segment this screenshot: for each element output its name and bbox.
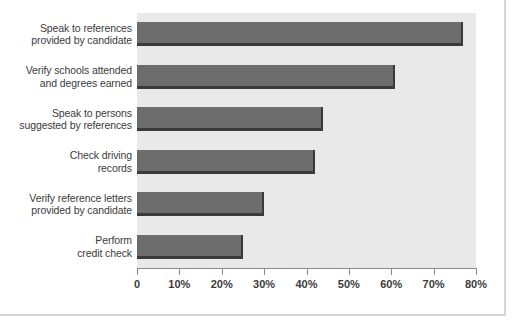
x-axis-tick-label: 60%: [380, 278, 402, 290]
category-axis-labels: Speak to referencesprovided by candidate…: [8, 13, 132, 268]
horizontal-bar-chart: Speak to referencesprovided by candidate…: [0, 0, 523, 332]
x-axis-tick-label: 20%: [211, 278, 233, 290]
category-label: Check drivingrecords: [8, 149, 132, 174]
category-label-line: provided by candidate: [8, 204, 132, 217]
x-axis-tick-label: 0: [134, 278, 140, 290]
x-axis-tick: [222, 268, 223, 275]
x-axis-tick: [391, 268, 392, 275]
category-label-line: credit check: [8, 247, 132, 260]
category-label-line: Speak to persons: [8, 107, 132, 120]
x-axis-tick-label: 50%: [338, 278, 360, 290]
category-label-line: Verify schools attended: [8, 64, 132, 77]
x-axis-tick-label: 80%: [465, 278, 487, 290]
category-label: Speak to personssuggested by references: [8, 107, 132, 132]
category-label-line: Perform: [8, 234, 132, 247]
bar: [137, 235, 243, 259]
bar: [137, 150, 315, 174]
bar: [137, 65, 395, 89]
bar: [137, 22, 463, 46]
category-label-line: provided by candidate: [8, 34, 132, 47]
plot-area: [137, 13, 476, 268]
category-label: Speak to referencesprovided by candidate: [8, 22, 132, 47]
x-axis-tick-label: 70%: [423, 278, 445, 290]
x-axis-tick-label: 40%: [295, 278, 317, 290]
category-label-line: Verify reference letters: [8, 192, 132, 205]
x-axis-tick: [179, 268, 180, 275]
category-label: Verify reference lettersprovided by cand…: [8, 192, 132, 217]
category-label-line: records: [8, 162, 132, 175]
bar: [137, 192, 264, 216]
x-axis-tick: [264, 268, 265, 275]
category-label-line: Check driving: [8, 149, 132, 162]
x-axis-tick: [434, 268, 435, 275]
bar: [137, 107, 323, 131]
category-label-line: and degrees earned: [8, 77, 132, 90]
category-label: Performcredit check: [8, 234, 132, 259]
x-axis-tick: [476, 268, 477, 275]
category-label-line: suggested by references: [8, 119, 132, 132]
x-axis-tick: [349, 268, 350, 275]
x-axis-tick: [307, 268, 308, 275]
category-label: Verify schools attendedand degrees earne…: [8, 64, 132, 89]
x-axis-tick-label: 10%: [168, 278, 190, 290]
x-axis-tick: [137, 268, 138, 275]
category-label-line: Speak to references: [8, 22, 132, 35]
x-axis-tick-label: 30%: [253, 278, 275, 290]
